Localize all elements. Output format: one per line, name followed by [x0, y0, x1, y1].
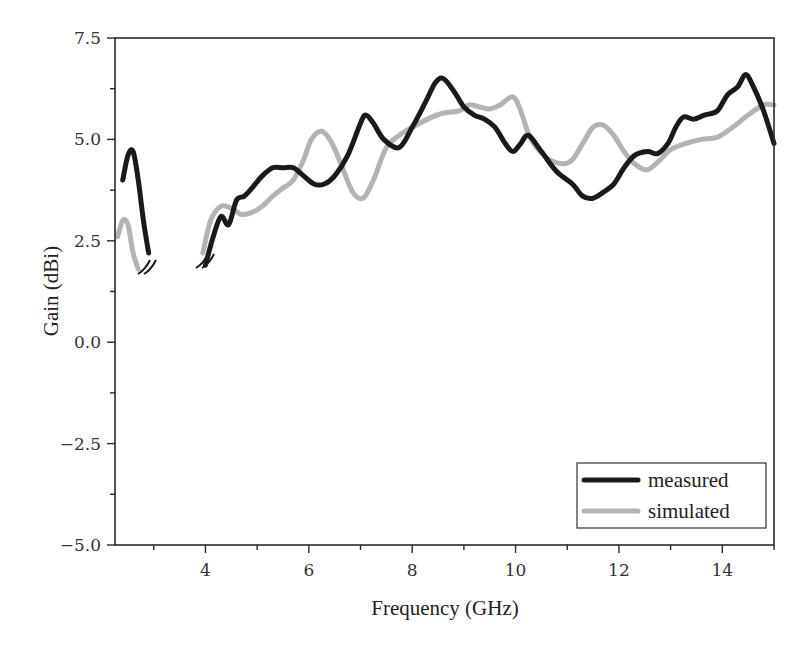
y-tick-label: 0.0: [74, 332, 101, 352]
x-tick-label: 12: [608, 560, 630, 580]
y-tick-label: 2.5: [74, 231, 101, 251]
series-measured: [205, 75, 774, 266]
y-tick-label: 7.5: [74, 28, 101, 48]
x-axis-title: Frequency (GHz): [371, 596, 519, 620]
y-axis: −5.0−2.50.02.55.07.5: [60, 28, 115, 555]
y-tick-label: 5.0: [74, 129, 101, 149]
x-tick-label: 14: [711, 560, 733, 580]
axis-break-marks: [138, 254, 214, 274]
series-simulated: [118, 219, 139, 269]
plot-series: [118, 75, 774, 270]
series-measured: [123, 150, 149, 253]
y-tick-label: −5.0: [60, 535, 101, 555]
x-axis: 468101214: [154, 545, 774, 580]
legend: measured simulated: [577, 463, 766, 528]
gain-chart: 468101214 −5.0−2.50.02.55.07.5 Frequency…: [0, 0, 809, 651]
y-axis-title: Gain (dBi): [39, 246, 63, 336]
x-tick-label: 8: [407, 560, 418, 580]
legend-label-measured: measured: [648, 468, 729, 492]
legend-label-simulated: simulated: [648, 499, 730, 523]
x-tick-label: 6: [303, 560, 314, 580]
y-tick-label: −2.5: [60, 434, 101, 454]
x-tick-label: 4: [200, 560, 211, 580]
x-tick-label: 10: [505, 560, 527, 580]
